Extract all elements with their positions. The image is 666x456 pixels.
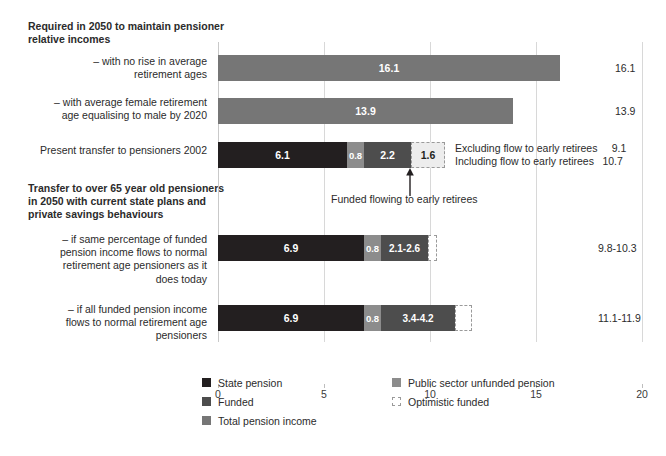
segment-state-pension: 6.1 (218, 142, 347, 168)
section-heading-2-line3: private savings behaviours (28, 208, 228, 221)
legend-column-2: Public sector unfunded pension Optimisti… (392, 373, 555, 411)
bar-row-3: 6.1 0.8 2.2 1.6 (218, 142, 445, 168)
legend-item-optimistic-funded: Optimistic funded (392, 392, 555, 411)
gridline-10 (430, 42, 431, 342)
row-total-2: 13.9 (615, 105, 635, 117)
gridline-0 (218, 42, 219, 342)
bar-row-4: 6.9 0.8 2.1-2.6 (218, 235, 437, 261)
row-label-3: Present transfer to pensioners 2002 (12, 144, 207, 157)
segment-funded: 3.4-4.2 (381, 305, 455, 331)
row-label-4: – if same percentage of funded pension i… (12, 233, 207, 286)
bar-row-2: 13.9 (218, 98, 513, 124)
annotation-excluding-text: Excluding flow to early retirees (455, 142, 597, 154)
plot-area: 16.1 13.9 6.1 0.8 2.2 1.6 6.9 0.8 2.1-2.… (218, 42, 643, 342)
gridline-20 (642, 42, 643, 342)
segment-optimistic-funded (428, 235, 437, 261)
section-heading-2-line1: Transfer to over 65 year old pensioners (28, 182, 228, 195)
legend-item-public-sector-unfunded-pension: Public sector unfunded pension (392, 373, 555, 392)
section-heading-1-line2: relative incomes (28, 33, 228, 46)
segment-state-pension: 6.9 (218, 305, 364, 331)
segment-optimistic-funded: 1.6 (411, 142, 445, 168)
chart-figure: Required in 2050 to maintain pensioner r… (0, 0, 666, 456)
legend-label-total-pension-income: Total pension income (218, 415, 317, 427)
callout-arrow-icon (400, 168, 424, 196)
axis-tick-label-20: 20 (636, 388, 648, 400)
segment-state-pension: 6.9 (218, 235, 364, 261)
segment-funded: 2.2 (364, 142, 411, 168)
legend-label-public-sector-unfunded-pension: Public sector unfunded pension (408, 377, 555, 389)
axis-tick-label-5: 5 (321, 388, 327, 400)
row-total-1: 16.1 (615, 62, 635, 74)
legend-swatch-optimistic-funded (392, 397, 401, 406)
row-total-5: 11.1-11.9 (598, 312, 641, 324)
section-heading-1-line1: Required in 2050 to maintain pensioner (28, 20, 228, 33)
row-label-5: – if all funded pension income flows to … (12, 303, 207, 343)
bar-row-1: 16.1 (218, 55, 560, 81)
segment-total-pension-income: 16.1 (218, 55, 560, 81)
segment-funded: 2.1-2.6 (381, 235, 428, 261)
row-label-1: – with no rise in average retirement age… (12, 55, 207, 81)
legend-swatch-total-pension-income (202, 416, 211, 425)
segment-public-sector-unfunded-pension: 0.8 (364, 305, 381, 331)
legend-swatch-funded (202, 397, 211, 406)
segment-public-sector-unfunded-pension: 0.8 (364, 235, 381, 261)
annotation-excluding-value: 9.1 (600, 142, 626, 154)
gridline-15 (536, 42, 537, 342)
legend-column-1: State pension Funded Total pension incom… (202, 373, 317, 430)
bar-row-5: 6.9 0.8 3.4-4.2 (218, 305, 472, 331)
legend-label-state-pension: State pension (218, 377, 282, 389)
row-total-4: 9.8-10.3 (598, 242, 637, 254)
row-label-2: – with average female retirement age equ… (12, 96, 207, 122)
legend-item-funded: Funded (202, 392, 317, 411)
segment-total-pension-income: 13.9 (218, 98, 513, 124)
section-heading-2: Transfer to over 65 year old pensioners … (28, 182, 228, 222)
segment-optimistic-funded (455, 305, 472, 331)
annotation-including-text: Including flow to early retirees (455, 155, 594, 167)
segment-public-sector-unfunded-pension: 0.8 (347, 142, 364, 168)
annotation-including-value: 10.7 (597, 155, 623, 167)
legend-label-optimistic-funded: Optimistic funded (408, 396, 489, 408)
legend-swatch-public-sector-unfunded-pension (392, 378, 401, 387)
section-heading-1: Required in 2050 to maintain pensioner r… (28, 20, 228, 46)
legend-item-state-pension: State pension (202, 373, 317, 392)
legend-swatch-state-pension (202, 378, 211, 387)
section-heading-2-line2: in 2050 with current state plans and (28, 195, 228, 208)
annotation-excluding: Excluding flow to early retirees 9.1 (455, 142, 626, 154)
gridline-5 (324, 42, 325, 342)
legend-item-total-pension-income: Total pension income (202, 411, 317, 430)
legend-label-funded: Funded (218, 396, 254, 408)
annotation-including: Including flow to early retirees 10.7 (455, 155, 623, 167)
callout-label: Funded flowing to early retirees (331, 193, 478, 205)
